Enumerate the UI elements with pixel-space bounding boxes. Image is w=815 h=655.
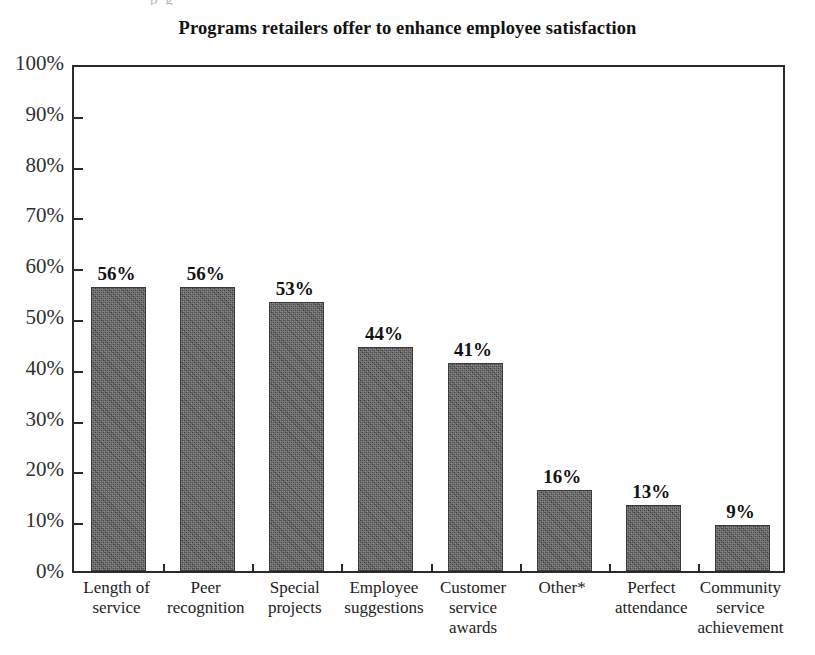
x-axis-tick [698, 564, 700, 571]
y-axis-tick-label: 70% [0, 203, 64, 228]
x-axis-labels: Length ofservicePeerrecognitionSpecialpr… [72, 578, 785, 655]
y-axis-labels: 100%90%80%70%60%50%40%30%20%10%0% [0, 0, 66, 655]
x-axis-category-label: Length ofservice [72, 578, 161, 618]
scan-artifact-text: p g [150, 0, 370, 5]
y-axis-tick-label: 50% [0, 305, 64, 330]
chart-title: Programs retailers offer to enhance empl… [0, 18, 815, 39]
bar [358, 347, 413, 571]
y-axis-tick [74, 320, 83, 322]
y-axis-tick [74, 168, 83, 170]
y-axis-tick [74, 371, 83, 373]
y-axis-tick [74, 117, 83, 119]
bar-value-label: 41% [433, 339, 513, 361]
x-axis-category-label: Specialprojects [250, 578, 339, 618]
x-axis-tick [252, 564, 254, 571]
bar [626, 505, 681, 571]
x-axis-tick [520, 564, 522, 571]
x-axis-category-label: Perfectattendance [607, 578, 696, 618]
y-axis-tick-label: 20% [0, 457, 64, 482]
y-axis-tick-label: 90% [0, 102, 64, 127]
x-axis-category-label: Other* [518, 578, 607, 598]
y-axis-tick-label: 40% [0, 356, 64, 381]
y-axis-tick [74, 472, 83, 474]
bar [537, 490, 592, 571]
bar-value-label: 56% [166, 263, 246, 285]
y-axis-tick-label: 10% [0, 508, 64, 533]
bar [269, 302, 324, 571]
x-axis-tick [341, 564, 343, 571]
x-axis-tick [431, 564, 433, 571]
bar [448, 363, 503, 571]
x-axis-category-label: Communityserviceachievement [696, 578, 785, 638]
x-axis-category-label: Customerserviceawards [429, 578, 518, 638]
y-axis-tick [74, 218, 83, 220]
x-axis-category-label: Peerrecognition [161, 578, 250, 618]
x-axis-category-label: Employeesuggestions [339, 578, 428, 618]
x-axis-tick [163, 564, 165, 571]
bar-value-label: 9% [700, 501, 780, 523]
bar-value-label: 16% [522, 466, 602, 488]
y-axis-tick [74, 422, 83, 424]
y-axis-tick-label: 100% [0, 51, 64, 76]
bar-value-label: 56% [77, 263, 157, 285]
y-axis-tick-label: 80% [0, 153, 64, 178]
bar-value-label: 13% [611, 481, 691, 503]
y-axis-tick-label: 0% [0, 559, 64, 584]
x-axis-tick [609, 564, 611, 571]
bar-value-label: 53% [255, 278, 335, 300]
y-axis-tick [74, 523, 83, 525]
y-axis-tick-label: 30% [0, 407, 64, 432]
bar-value-label: 44% [344, 323, 424, 345]
y-axis-tick-label: 60% [0, 254, 64, 279]
bar [91, 287, 146, 571]
bar [180, 287, 235, 571]
bar [715, 525, 770, 571]
